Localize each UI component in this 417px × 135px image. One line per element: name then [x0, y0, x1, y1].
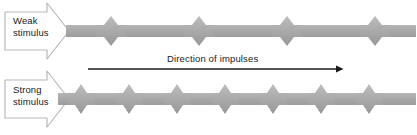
diagram-canvas — [0, 0, 417, 135]
impulse-bulge — [68, 84, 95, 114]
impulse-bulge — [356, 84, 383, 114]
strong-stimulus-fiber — [58, 84, 416, 114]
impulse-bulge — [164, 84, 191, 114]
direction-of-impulses-label: Direction of impulses — [167, 53, 258, 65]
impulse-bulge — [308, 84, 335, 114]
impulse-bulge — [96, 16, 126, 46]
impulse-bulge — [212, 84, 239, 114]
impulse-bulge — [360, 16, 390, 46]
weak-stimulus-fiber — [66, 16, 416, 46]
impulse-bulge — [184, 16, 214, 46]
nerve-impulse-diagram: Weak stimulus Strong stimulus Direction … — [0, 0, 417, 135]
direction-arrow-icon — [88, 65, 344, 72]
strong-stimulus-label: Strong stimulus — [13, 84, 49, 107]
weak-stimulus-label: Weak stimulus — [13, 15, 49, 38]
impulse-bulge — [116, 84, 143, 114]
impulse-bulge — [260, 84, 287, 114]
impulse-bulge — [272, 16, 302, 46]
